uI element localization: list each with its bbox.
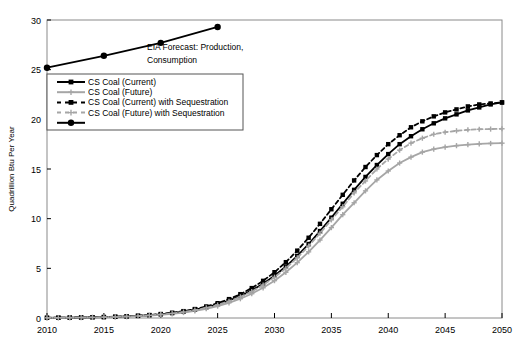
data-point <box>432 114 436 118</box>
y-tick-label: 20 <box>31 115 41 125</box>
data-point <box>272 270 276 274</box>
line-chart: 051015202530 201020152020202520302035204… <box>0 0 514 354</box>
chart-legend[interactable]: CS Coal (Current)CS Coal (Future)CS Coal… <box>47 74 243 130</box>
data-point <box>295 248 299 252</box>
data-point <box>432 121 436 125</box>
legend-label: CS Coal (Current) with Sequestration <box>88 97 229 107</box>
y-tick-label: 5 <box>36 264 41 274</box>
data-point <box>352 178 356 182</box>
legend-label: CS Coal (Current) <box>88 77 156 87</box>
data-point <box>44 64 50 70</box>
data-point <box>306 236 310 240</box>
x-tick-label: 2045 <box>435 325 455 335</box>
x-tick-label: 2010 <box>37 325 57 335</box>
data-point <box>420 127 424 131</box>
legend-label: CS Coal (Future) with Sequestration <box>88 108 225 118</box>
y-tick-label: 30 <box>31 16 41 26</box>
data-point <box>261 279 265 283</box>
data-point <box>69 100 74 105</box>
x-tick-label: 2030 <box>264 325 284 335</box>
y-tick-label: 15 <box>31 165 41 175</box>
data-point <box>375 153 379 157</box>
data-point <box>318 222 322 226</box>
chart-figure: 051015202530 201020152020202520302035204… <box>0 0 514 354</box>
data-point <box>386 142 390 146</box>
y-tick-label: 25 <box>31 65 41 75</box>
data-point <box>477 102 481 106</box>
x-tick-label: 2050 <box>492 325 512 335</box>
x-tick-label: 2025 <box>208 325 228 335</box>
legend-label: CS Coal (Future) <box>88 87 152 97</box>
data-point <box>454 107 458 111</box>
data-point <box>409 125 413 129</box>
data-point <box>397 133 401 137</box>
x-tick-label: 2020 <box>151 325 171 335</box>
data-point <box>443 116 447 120</box>
x-tick-label: 2015 <box>94 325 114 335</box>
data-point <box>341 193 345 197</box>
data-point <box>214 24 220 30</box>
data-point <box>420 119 424 123</box>
data-point <box>397 142 401 146</box>
data-point <box>488 101 492 105</box>
y-tick-label: 10 <box>31 214 41 224</box>
x-tick-label: 2035 <box>321 325 341 335</box>
data-point <box>284 260 288 264</box>
data-point <box>68 120 74 126</box>
eia-forecast-annotation-line2: Consumption <box>147 55 197 65</box>
data-point <box>443 110 447 114</box>
data-point <box>69 80 74 85</box>
data-point <box>466 104 470 108</box>
x-tick-label: 2040 <box>378 325 398 335</box>
eia-forecast-annotation-line1: EIA Forecast: Production, <box>147 42 243 52</box>
data-point <box>363 165 367 169</box>
data-point <box>500 100 504 104</box>
data-point <box>409 134 413 138</box>
data-point <box>329 207 333 211</box>
y-tick-label: 0 <box>36 314 41 324</box>
data-point <box>101 53 107 59</box>
y-axis-label: Quadrillion Btu Per Year <box>7 126 16 212</box>
chart-background <box>0 0 514 354</box>
data-point <box>386 152 390 156</box>
data-point <box>466 108 470 112</box>
data-point <box>454 112 458 116</box>
